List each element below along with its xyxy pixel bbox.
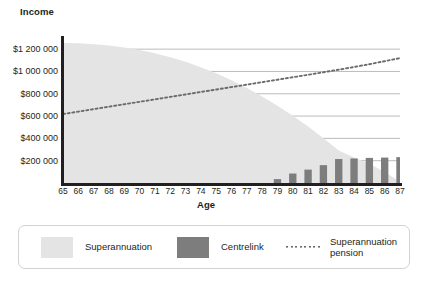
centrelink-bar [366, 158, 373, 183]
x-tick-label: 76 [227, 186, 236, 196]
x-tick-label: 79 [273, 186, 282, 196]
x-tick-label: 74 [196, 186, 205, 196]
x-tick-label: 66 [74, 186, 83, 196]
centrelink-bar [335, 159, 342, 183]
x-tick-label: 81 [303, 186, 312, 196]
x-tick-label: 85 [365, 186, 374, 196]
x-axis-title: Age [0, 199, 432, 210]
superannuation-swatch-icon [41, 237, 73, 258]
legend-item-centrelink: Centrelink [177, 226, 264, 268]
superannuation-area [63, 43, 400, 183]
centrelink-bar [320, 165, 327, 183]
x-tick-label: 71 [150, 186, 159, 196]
centrelink-bar [304, 170, 311, 183]
y-tick-label: $800 000 [20, 89, 58, 99]
x-tick-label: 82 [319, 186, 328, 196]
y-tick-label: $1 000 000 [13, 66, 58, 76]
x-tick-label: 73 [181, 186, 190, 196]
x-tick-label: 68 [104, 186, 113, 196]
x-tick-label: 87 [395, 186, 404, 196]
plot-svg [63, 38, 400, 183]
x-tick-label: 75 [211, 186, 220, 196]
x-tick-label: 72 [165, 186, 174, 196]
x-tick-label: 83 [334, 186, 343, 196]
y-tick-label: $200 000 [20, 156, 58, 166]
x-axis-title-text: Age [197, 199, 215, 210]
centrelink-bar [396, 157, 400, 183]
y-tick-label: $600 000 [20, 111, 58, 121]
x-tick-label: 84 [349, 186, 358, 196]
centrelink-bar [289, 174, 296, 183]
x-tick-label: 86 [380, 186, 389, 196]
legend-label-superannuation-pension: Superannuation pension [330, 236, 409, 259]
legend: Superannuation Centrelink Superannuation… [18, 225, 410, 269]
x-tick-label: 80 [288, 186, 297, 196]
income-projection-chart: Income $200 000$400 000$600 000$800 000$… [0, 0, 432, 283]
x-tick-label: 69 [120, 186, 129, 196]
dotted-line-swatch-icon [286, 245, 320, 249]
x-tick-label: 65 [58, 186, 67, 196]
plot-area [63, 38, 400, 183]
y-axis-line [61, 36, 64, 185]
legend-item-superannuation-pension: Superannuation pension [286, 226, 409, 268]
legend-label-centrelink: Centrelink [221, 241, 264, 253]
legend-label-superannuation: Superannuation [85, 241, 152, 253]
y-tick-label: $1 200 000 [13, 44, 58, 54]
centrelink-bar [350, 158, 357, 183]
centrelink-bar [381, 158, 388, 183]
x-axis-tick-labels: 6566676869707172737475767778798081828384… [63, 186, 400, 200]
centrelink-swatch-icon [177, 237, 209, 258]
x-tick-label: 78 [257, 186, 266, 196]
y-tick-label: $400 000 [20, 133, 58, 143]
x-tick-label: 70 [135, 186, 144, 196]
x-tick-label: 67 [89, 186, 98, 196]
legend-item-superannuation: Superannuation [41, 226, 152, 268]
x-tick-label: 77 [242, 186, 251, 196]
